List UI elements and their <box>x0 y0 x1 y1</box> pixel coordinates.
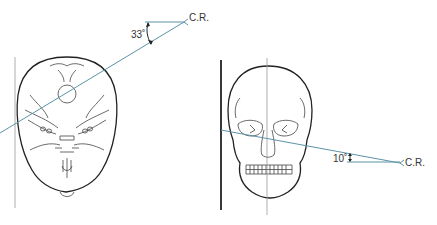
right-skull-view: 10˚ C.R. <box>221 58 425 215</box>
left-skull-view: 33˚ C.R. <box>0 12 209 208</box>
teeth-detail <box>246 165 292 174</box>
right-central-ray <box>221 130 400 163</box>
right-cr-label: C.R. <box>405 157 425 168</box>
right-orbit-right <box>273 120 298 136</box>
radiography-diagram: 33˚ C.R. 10˚ C.R. <box>0 0 437 225</box>
skull-detail <box>30 144 104 150</box>
left-angle-label: 33˚ <box>131 29 145 40</box>
skull-detail <box>60 136 74 140</box>
skull-detail <box>55 148 79 152</box>
skull-detail <box>50 64 84 66</box>
right-ray-tip-icon <box>400 160 404 166</box>
nasal-cavity <box>261 130 275 157</box>
left-cr-label: C.R. <box>189 12 209 23</box>
left-ray-tip-icon <box>184 19 188 25</box>
skull-detail <box>58 70 76 82</box>
skull-detail <box>60 192 74 197</box>
right-angle-label: 10˚ <box>333 153 347 164</box>
skull-detail <box>28 120 106 134</box>
skull-detail <box>62 158 72 178</box>
skull-detail <box>30 95 104 118</box>
skull-detail <box>235 98 305 118</box>
foramen-magnum <box>58 85 76 103</box>
left-central-ray <box>0 22 184 133</box>
skull-detail <box>250 125 287 133</box>
